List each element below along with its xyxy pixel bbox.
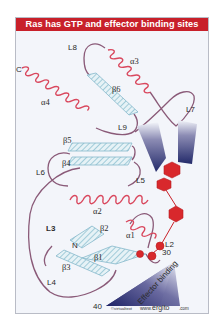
- label-L6: L6: [36, 168, 45, 177]
- label-L7: L7: [186, 105, 195, 114]
- svg-text:ergito: ergito: [152, 304, 170, 312]
- label-a2: α2: [93, 206, 102, 216]
- label-b5: β5: [63, 135, 72, 145]
- label-b3: β3: [62, 262, 71, 272]
- svg-text:.com: .com: [179, 306, 189, 311]
- ras-structure-diagram: L8 α3 C β6 α4 L7 L9 β5 β4 L6 L5 α2 L3 β2…: [0, 0, 224, 326]
- strand-b4: [68, 157, 132, 165]
- label-a3: α3: [130, 56, 139, 66]
- wedge-right: [178, 120, 197, 164]
- strand-b6: [87, 73, 138, 115]
- label-b1: β1: [94, 252, 103, 262]
- label-res30: 30: [162, 248, 171, 257]
- helix-a4: [20, 65, 90, 114]
- label-res40: 40: [93, 302, 102, 311]
- svg-text:www.: www.: [140, 305, 152, 311]
- label-a1: α1: [126, 230, 135, 240]
- label-L5: L5: [136, 176, 145, 185]
- label-L4: L4: [47, 278, 56, 287]
- label-a4: α4: [41, 97, 50, 107]
- strand-b5: [68, 143, 132, 151]
- label-N: N: [72, 241, 78, 250]
- beta-strands: [56, 73, 146, 276]
- label-L8: L8: [68, 43, 77, 52]
- helix-a2: [70, 196, 148, 204]
- label-C: C: [16, 65, 22, 74]
- label-b6: β6: [112, 84, 121, 94]
- svg-text:©virtualtext: ©virtualtext: [111, 306, 133, 311]
- wedge-left: [137, 122, 166, 172]
- label-b4: β4: [62, 158, 71, 168]
- label-b2: β2: [100, 223, 109, 233]
- label-L3: L3: [46, 224, 56, 233]
- label-L9: L9: [118, 123, 127, 132]
